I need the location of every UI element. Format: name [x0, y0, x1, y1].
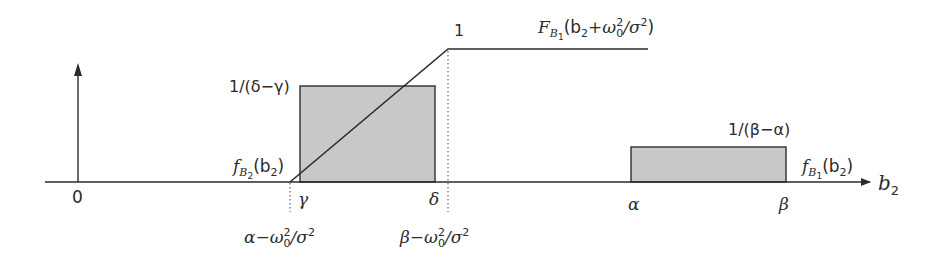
tick-alpha-minus-shift: α−ω02/σ2: [244, 226, 315, 250]
left-density-box: [300, 86, 435, 182]
tick-beta: β: [778, 194, 789, 214]
right-density-box: [631, 147, 786, 182]
right-density-function-label: fB1(b2): [800, 156, 853, 181]
diagram-canvas: 0 b2 γ δ α β α−ω02/σ2 β−ω02/σ2 1/(δ−γ) f…: [0, 0, 931, 261]
arrow-up-icon: [74, 63, 82, 76]
tick-beta-minus-shift: β−ω02/σ2: [399, 226, 469, 250]
tick-alpha: α: [628, 194, 640, 214]
tick-gamma: γ: [298, 189, 309, 209]
right-box-height-label: 1/(β−α): [728, 120, 790, 139]
left-box-height-label: 1/(δ−γ): [229, 77, 290, 96]
tick-delta: δ: [429, 189, 439, 209]
cdf-function-label: FB1(b2+ω02/σ2): [537, 16, 654, 42]
origin-label: 0: [72, 187, 83, 207]
cdf-max-label: 1: [454, 21, 464, 40]
left-density-function-label: fB2(b2): [231, 156, 284, 181]
x-axis-label: b2: [878, 171, 899, 198]
